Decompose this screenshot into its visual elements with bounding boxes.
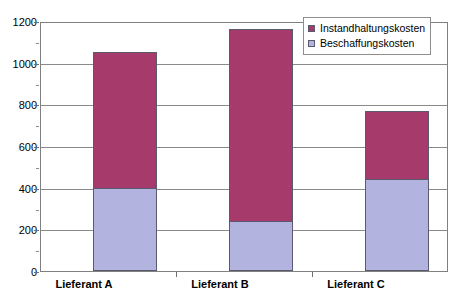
legend-item-instandhaltungskosten[interactable]: Instandhaltungskosten bbox=[308, 21, 425, 36]
y-tick-label-600: 600 bbox=[3, 142, 37, 153]
y-tick-major bbox=[34, 105, 39, 106]
legend-swatch-icon-instandhaltungskosten bbox=[308, 25, 315, 32]
bar-segment-beschaffung-a[interactable] bbox=[93, 188, 157, 271]
y-tick-major bbox=[34, 230, 39, 231]
y-tick-major bbox=[34, 22, 39, 23]
y-tick-major bbox=[34, 189, 39, 190]
y-tick-minor bbox=[36, 251, 39, 252]
x-tick bbox=[176, 272, 177, 277]
bar-lieferant-c[interactable] bbox=[365, 111, 429, 271]
x-axis-label-lieferant-a: Lieferant A bbox=[24, 278, 144, 290]
y-tick-major bbox=[34, 272, 39, 273]
x-axis-label-lieferant-b: Lieferant B bbox=[160, 278, 280, 290]
y-tick-label-800: 800 bbox=[3, 100, 37, 111]
y-tick-minor bbox=[36, 126, 39, 127]
y-tick-major bbox=[34, 147, 39, 148]
y-tick-label-1000: 1000 bbox=[3, 58, 37, 69]
x-axis-label-lieferant-c: Lieferant C bbox=[296, 278, 416, 290]
y-tick-minor bbox=[36, 210, 39, 211]
bar-segment-beschaffung-b[interactable] bbox=[229, 221, 293, 271]
legend-item-beschaffungskosten[interactable]: Beschaffungskosten bbox=[308, 36, 425, 51]
bar-segment-instandhaltung-c[interactable] bbox=[365, 111, 429, 180]
legend-label-instandhaltungskosten: Instandhaltungskosten bbox=[320, 23, 425, 34]
stacked-bar-chart: 0 200 400 600 800 1000 1200 bbox=[0, 0, 462, 303]
x-tick bbox=[312, 272, 313, 277]
bar-lieferant-a[interactable] bbox=[93, 52, 157, 271]
plot-area bbox=[40, 22, 448, 272]
y-tick-minor bbox=[36, 168, 39, 169]
y-tick-minor bbox=[36, 85, 39, 86]
y-tick-label-1200: 1200 bbox=[3, 17, 37, 28]
legend-label-beschaffungskosten: Beschaffungskosten bbox=[320, 38, 414, 49]
y-tick-label-200: 200 bbox=[3, 225, 37, 236]
bar-segment-instandhaltung-a[interactable] bbox=[93, 52, 157, 187]
legend-swatch-icon-beschaffungskosten bbox=[308, 40, 315, 47]
bar-segment-instandhaltung-b[interactable] bbox=[229, 29, 293, 221]
bar-segment-beschaffung-c[interactable] bbox=[365, 179, 429, 271]
y-tick-minor bbox=[36, 43, 39, 44]
y-tick-major bbox=[34, 64, 39, 65]
legend: Instandhaltungskosten Beschaffungskosten bbox=[303, 17, 431, 55]
y-tick-label-0: 0 bbox=[3, 267, 37, 278]
bar-lieferant-b[interactable] bbox=[229, 29, 293, 271]
y-axis: 0 200 400 600 800 1000 1200 bbox=[0, 22, 37, 272]
y-tick-label-400: 400 bbox=[3, 183, 37, 194]
